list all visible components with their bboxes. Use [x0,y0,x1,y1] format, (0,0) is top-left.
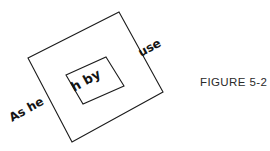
figure-canvas: As he use h by FIGURE 5-2 [0,0,270,151]
figure-caption: FIGURE 5-2 [200,76,267,88]
